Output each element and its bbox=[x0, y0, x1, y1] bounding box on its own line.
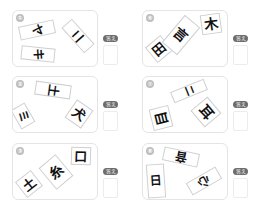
answer-badge-8: 答え bbox=[233, 168, 248, 175]
answer-badge-6: 答え bbox=[233, 35, 248, 42]
puzzle-piece[interactable]: 耳 bbox=[191, 97, 222, 128]
puzzle-piece[interactable]: 目 bbox=[149, 105, 174, 131]
puzzle-piece[interactable]: ニ bbox=[61, 19, 94, 54]
puzzle-number: ② bbox=[16, 80, 24, 88]
puzzle-piece[interactable]: 木 bbox=[200, 13, 223, 36]
puzzle-card-6: ⑥ 田 言 木 bbox=[142, 10, 228, 67]
puzzle-piece[interactable]: 土 bbox=[34, 81, 72, 100]
answer-box-8[interactable] bbox=[233, 178, 248, 198]
answer-badge-7: 答え bbox=[233, 101, 248, 108]
answer-badge-3: 答え bbox=[103, 168, 118, 175]
puzzle-card-7: ⑦ ニ 目 耳 bbox=[142, 76, 228, 133]
puzzle-piece[interactable]: 音 bbox=[162, 146, 200, 167]
puzzle-piece[interactable]: ヤ bbox=[18, 19, 56, 40]
answer-badge-2: 答え bbox=[103, 101, 118, 108]
puzzle-piece[interactable]: 心 bbox=[186, 166, 222, 195]
puzzle-piece[interactable]: キ bbox=[20, 45, 55, 62]
answer-box-6[interactable] bbox=[233, 45, 248, 65]
puzzle-piece[interactable]: 糸 bbox=[39, 154, 74, 190]
puzzle-number: ⑧ bbox=[146, 147, 154, 155]
answer-badge-1: 答え bbox=[103, 35, 118, 42]
puzzle-card-2: ② 土 ミ 犬 bbox=[12, 76, 98, 133]
puzzle-number: ⑦ bbox=[146, 80, 154, 88]
puzzle-card-1: ① ヤ ニ キ bbox=[12, 10, 98, 67]
answer-box-7[interactable] bbox=[233, 111, 248, 131]
answer-box-3[interactable] bbox=[103, 178, 118, 198]
puzzle-number: ⑥ bbox=[146, 14, 154, 22]
puzzle-piece[interactable]: 犬 bbox=[64, 99, 93, 128]
puzzle-piece[interactable]: 日 bbox=[146, 163, 166, 198]
puzzle-number: ③ bbox=[16, 147, 24, 155]
puzzle-card-8: ⑧ 日 音 心 bbox=[142, 143, 228, 200]
answer-box-1[interactable] bbox=[103, 45, 118, 65]
puzzle-piece[interactable]: 土 bbox=[15, 170, 43, 198]
puzzle-number: ① bbox=[16, 14, 24, 22]
puzzle-card-3: ③ 土 糸 口 bbox=[12, 143, 98, 200]
puzzle-piece[interactable]: ミ bbox=[12, 102, 35, 129]
puzzle-piece[interactable]: 口 bbox=[71, 147, 92, 166]
answer-box-2[interactable] bbox=[103, 111, 118, 131]
